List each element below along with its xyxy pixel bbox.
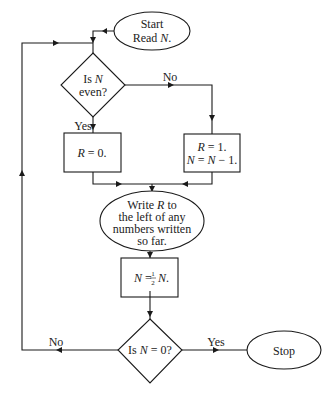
arrow-right-icon bbox=[116, 181, 122, 187]
connector-start bbox=[93, 31, 114, 53]
read-n-label: Read N. bbox=[133, 31, 172, 45]
so-far-label: so far. bbox=[137, 234, 166, 248]
arrow-right-icon bbox=[53, 40, 59, 46]
flowchart-diagram: Start Read N. Is N even? No Yes R = 0. R… bbox=[0, 0, 333, 398]
fraction-denominator: 2 bbox=[151, 279, 155, 287]
connector-even-no bbox=[125, 85, 212, 134]
r-equals-1-label: R = 1. bbox=[196, 140, 226, 154]
connector-merge bbox=[93, 172, 212, 184]
start-terminal: Start Read N. bbox=[114, 12, 190, 50]
yes-label: Yes bbox=[207, 335, 225, 349]
halve-n-suffix: N. bbox=[157, 271, 169, 285]
decision-is-n-even: Is N even? bbox=[61, 53, 125, 117]
arrow-down-icon bbox=[147, 252, 153, 258]
arrow-left-icon bbox=[102, 28, 107, 34]
process-r-equals-0: R = 0. bbox=[64, 133, 121, 172]
arrow-left-icon bbox=[182, 181, 188, 187]
process-r-equals-1: R = 1. N = N − 1. bbox=[184, 134, 240, 172]
decision-is-n-zero: Is N = 0? bbox=[118, 319, 182, 383]
arrow-down-icon bbox=[209, 115, 215, 121]
n-minus-1-label: N = N − 1. bbox=[186, 153, 238, 167]
no-label: No bbox=[49, 335, 64, 349]
halve-n-label: N = bbox=[133, 271, 152, 285]
is-n-label: Is N bbox=[83, 72, 104, 86]
yes-label: Yes bbox=[74, 119, 92, 133]
arrow-down-icon bbox=[90, 37, 96, 43]
write-r-step: Write R to the left of any numbers writt… bbox=[100, 191, 204, 251]
r-equals-0-label: R = 0. bbox=[76, 146, 106, 160]
is-n-zero-label: Is N = 0? bbox=[128, 343, 172, 357]
arrow-up-icon bbox=[19, 170, 25, 176]
stop-terminal: Stop bbox=[247, 331, 321, 369]
stop-label: Stop bbox=[273, 344, 295, 358]
no-label: No bbox=[163, 70, 178, 84]
start-label: Start bbox=[141, 17, 164, 31]
even-label: even? bbox=[79, 85, 107, 99]
fraction-numerator: 1 bbox=[151, 270, 155, 278]
